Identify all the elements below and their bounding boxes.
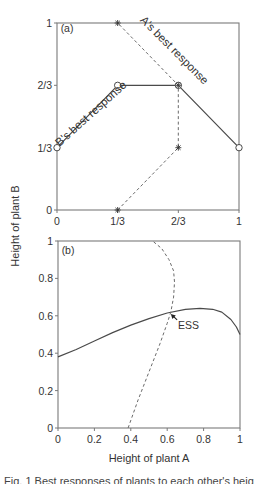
- plot-frame: [58, 241, 240, 428]
- y-tick-label: 0: [46, 204, 52, 216]
- x-axis-label: Height of plant A: [109, 452, 190, 464]
- x-tick-label: 0: [55, 433, 61, 445]
- series-label: A's best response: [138, 14, 211, 87]
- caption-fragment: Fig. 1 Best responses of plants to each …: [4, 474, 254, 484]
- series-b-best-response: [58, 308, 240, 357]
- y-tick-label: 1: [47, 235, 53, 247]
- y-tick-label: 0: [47, 422, 53, 434]
- x-tick-label: 1: [236, 215, 242, 227]
- open-circle-marker: [236, 144, 242, 150]
- x-tick-label: 1: [237, 433, 243, 445]
- x-tick-label: 0: [54, 215, 60, 227]
- asterisk-marker: [175, 145, 181, 151]
- panel-label: (a): [61, 22, 74, 34]
- x-tick-label: 0.8: [196, 433, 211, 445]
- y-tick-label: 0.6: [38, 310, 53, 322]
- asterisk-marker: [115, 207, 121, 213]
- x-tick-label: 0.4: [123, 433, 138, 445]
- series-label: B's best response: [53, 79, 129, 149]
- y-tick-label: 2/3: [37, 79, 52, 91]
- asterisk-marker: [175, 82, 181, 88]
- y-tick-label: 1: [46, 17, 52, 29]
- x-tick-label: 1/3: [110, 215, 125, 227]
- ess-label: ESS: [178, 319, 199, 331]
- y-axis-label: Height of plant B: [9, 185, 21, 266]
- series-a-best-response: [128, 241, 174, 428]
- x-tick-label: 0.6: [160, 433, 175, 445]
- panel-b-chart: 00.20.40.60.8100.20.40.60.81(b)ESSHeight…: [38, 235, 243, 464]
- y-tick-label: 0.2: [38, 385, 53, 397]
- y-tick-label: 0.4: [38, 347, 53, 359]
- panel-a-chart: 01/32/3101/32/31(a)A's best responseB's …: [37, 14, 242, 227]
- y-tick-label: 0.8: [38, 272, 53, 284]
- y-tick-label: 1/3: [37, 142, 52, 154]
- asterisk-marker: [115, 20, 121, 26]
- x-tick-label: 0.2: [87, 433, 102, 445]
- panel-label: (b): [62, 244, 75, 256]
- x-tick-label: 2/3: [171, 215, 186, 227]
